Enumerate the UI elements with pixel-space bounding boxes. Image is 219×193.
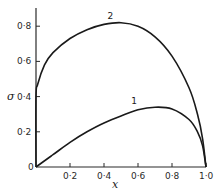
- x-ticks: 0·20·40·60·81·0: [63, 163, 214, 181]
- curve-labels: 12: [107, 11, 137, 105]
- y-tick-label: 0·2: [17, 127, 31, 137]
- curve-label-1: 1: [131, 96, 137, 106]
- y-tick-label: 0·8: [17, 21, 32, 31]
- x-axis-label: x: [112, 178, 119, 191]
- x-tick-label: 1·0: [199, 171, 214, 181]
- x-tick-label: 0·8: [165, 171, 180, 181]
- x-tick-label: 0·4: [97, 171, 112, 181]
- y-axis-label: σ: [7, 90, 15, 103]
- chart-canvas: 00·20·40·60·8 0·20·40·60·81·0 x σ 12: [0, 0, 219, 193]
- x-tick-label: 0·6: [131, 171, 146, 181]
- series-group: [36, 23, 206, 167]
- axes: 00·20·40·60·8 0·20·40·60·81·0 x σ: [7, 8, 214, 191]
- y-tick-label: 0·6: [17, 56, 32, 66]
- curve-label-2: 2: [107, 11, 113, 21]
- x-tick-label: 0·2: [63, 171, 77, 181]
- series-2-line: [36, 23, 206, 167]
- y-tick-label: 0·4: [17, 92, 32, 102]
- series-1-line: [36, 107, 206, 167]
- y-tick-label: 0: [28, 162, 34, 172]
